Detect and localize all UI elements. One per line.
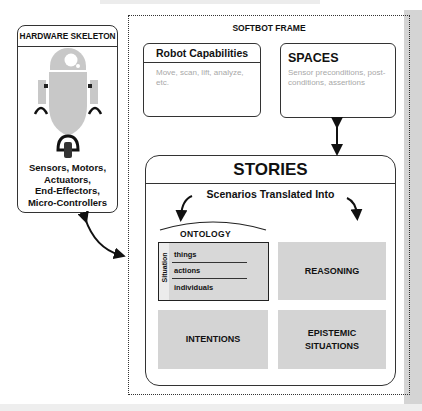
hardware-frame-arrow	[85, 218, 120, 255]
robot-icon	[32, 48, 104, 160]
spaces-box: SPACES Sensor preconditions, post-condit…	[280, 43, 396, 118]
page-edge-bottom	[0, 404, 422, 411]
hardware-skeleton-title: HARDWARE SKELETON	[18, 26, 117, 47]
reasoning-card: REASONING	[278, 242, 386, 300]
robot-capabilities-box: Robot Capabilities Move, scan, lift, ana…	[143, 43, 261, 117]
robot-capabilities-title: Robot Capabilities	[144, 44, 260, 63]
hardware-skeleton-box: HARDWARE SKELETON Sensors, Motors, Actua…	[17, 25, 118, 213]
robot-capabilities-description: Move, scan, lift, analyze, etc.	[156, 68, 256, 88]
ontology-item-individuals: individuals	[174, 283, 244, 292]
ontology-box: Situation things actions individuals	[158, 242, 269, 301]
ontology-item-things: things	[174, 250, 244, 259]
intentions-card: INTENTIONS	[158, 310, 268, 369]
ontology-divider	[172, 278, 247, 279]
scenarios-label: Scenarios Translated Into	[146, 188, 395, 200]
spaces-title: SPACES	[288, 51, 338, 65]
epistemic-situations-card: EPISTEMIC SITUATIONS	[278, 310, 386, 369]
situation-label: Situation	[161, 244, 168, 292]
page-edge-top	[100, 0, 320, 4]
ontology-title: ONTOLOGY	[180, 229, 231, 239]
ontology-item-actions: actions	[174, 266, 244, 275]
stories-title: STORIES	[146, 156, 395, 184]
spaces-description: Sensor preconditions, post-conditions, a…	[288, 68, 393, 88]
ontology-divider	[172, 262, 247, 263]
hardware-skeleton-description: Sensors, Motors, Actuators, End-Effector…	[18, 162, 117, 208]
softbot-frame-title: SOFTBOT FRAME	[129, 23, 409, 33]
